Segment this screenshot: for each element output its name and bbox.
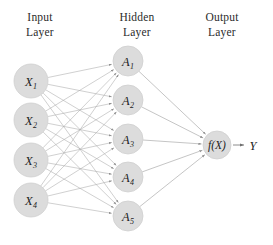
hidden-to-output-edges	[139, 71, 206, 206]
connection-edge	[43, 112, 117, 188]
connection-edge	[48, 181, 112, 196]
hidden-node-a2: A2	[113, 85, 143, 115]
hidden-node-a5: A5	[113, 201, 143, 231]
input-layer-title-line1: Input	[27, 11, 53, 24]
input-node-x1: X1	[14, 64, 48, 98]
hidden-layer-nodes: A1A2A3A4A5	[113, 46, 143, 231]
input-node-x4: X4	[14, 183, 48, 217]
hidden-node-a1: A1	[113, 46, 143, 76]
input-node-x2: X2	[14, 103, 48, 137]
hidden-layer-title-line2: Layer	[123, 26, 151, 39]
connection-edge	[140, 155, 205, 207]
output-node-label: f(X)	[208, 139, 226, 152]
input-layer-nodes: X1X2X3X4	[14, 64, 48, 217]
connection-edge	[43, 132, 116, 204]
output-layer-title-line1: Output	[205, 11, 239, 24]
output-node: f(X) Y	[203, 131, 259, 159]
connection-edge	[139, 71, 206, 134]
input-node-x3: X3	[14, 143, 48, 177]
connection-edge	[43, 93, 116, 165]
connection-edge	[45, 148, 114, 191]
connection-edge	[48, 64, 112, 77]
hidden-node-a4: A4	[113, 162, 143, 192]
output-result-label: Y	[250, 139, 259, 153]
output-layer-title-line2: Layer	[208, 26, 236, 39]
hidden-node-a3: A3	[113, 124, 143, 154]
layer-titles: Input Layer Hidden Layer Output Layer	[26, 11, 239, 39]
input-to-hidden-edges	[41, 64, 119, 213]
connection-edge	[141, 107, 203, 138]
hidden-layer-title-line1: Hidden	[119, 11, 154, 23]
connection-edge	[43, 73, 117, 148]
neural-network-diagram: Input Layer Hidden Layer Output Layer X1…	[0, 0, 273, 245]
connection-edge	[143, 140, 202, 144]
network-canvas: Input Layer Hidden Layer Output Layer X1…	[0, 0, 273, 245]
connection-edge	[142, 150, 202, 172]
connection-edge	[48, 203, 112, 214]
input-layer-title-line2: Layer	[26, 26, 54, 39]
